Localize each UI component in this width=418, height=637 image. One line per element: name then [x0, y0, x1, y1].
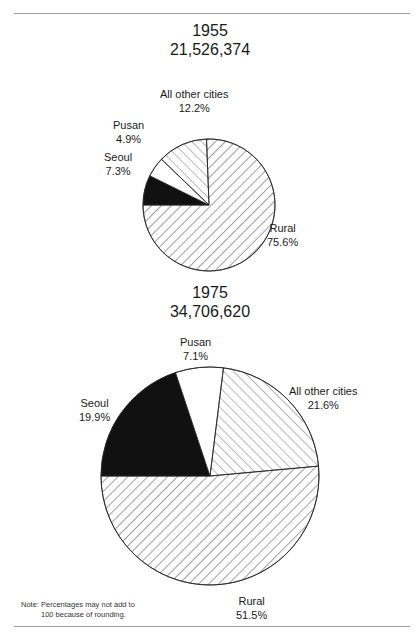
- label-name: All other cities: [160, 87, 228, 101]
- label-value: 7.1%: [180, 349, 211, 363]
- label-name: Rural: [236, 594, 267, 608]
- label-value: 21.6%: [289, 398, 357, 412]
- label-1975-pusan: Pusan 7.1%: [180, 335, 211, 363]
- note-line-1: Note: Percentages may not add to: [21, 600, 135, 609]
- label-1975-seoul: Seoul 19.9%: [79, 396, 110, 424]
- label-1955-seoul: Seoul 7.3%: [104, 150, 132, 178]
- chart-1975-year: 1975: [110, 283, 310, 302]
- label-value: 7.3%: [104, 164, 132, 178]
- label-value: 12.2%: [160, 101, 228, 115]
- note-line-2: 100 because of rounding.: [21, 610, 135, 620]
- label-1975-rural: Rural 51.5%: [236, 594, 267, 622]
- label-name: Seoul: [79, 396, 110, 410]
- label-1955-other-cities: All other cities 12.2%: [160, 87, 228, 115]
- label-1975-other-cities: All other cities 21.6%: [289, 384, 357, 412]
- pie-slice-rural: [101, 466, 319, 585]
- chart-1975-population: 34,706,620: [110, 302, 310, 321]
- chart-1955-year: 1955: [110, 21, 310, 40]
- label-1955-pusan: Pusan 4.9%: [113, 118, 144, 146]
- label-value: 75.6%: [267, 235, 298, 249]
- label-value: 51.5%: [236, 608, 267, 622]
- rounding-note: Note: Percentages may not add to 100 bec…: [21, 600, 135, 620]
- chart-1955-population: 21,526,374: [110, 40, 310, 59]
- pie-1975: [101, 367, 319, 585]
- label-name: Pusan: [113, 118, 144, 132]
- label-1955-rural: Rural 75.6%: [267, 221, 298, 249]
- label-value: 19.9%: [79, 410, 110, 424]
- pie-1955: [143, 139, 275, 271]
- label-name: All other cities: [289, 384, 357, 398]
- label-name: Pusan: [180, 335, 211, 349]
- label-value: 4.9%: [113, 132, 144, 146]
- label-name: Rural: [267, 221, 298, 235]
- label-name: Seoul: [104, 150, 132, 164]
